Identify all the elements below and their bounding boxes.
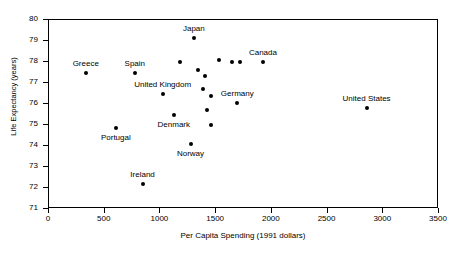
data-point <box>365 106 369 110</box>
data-point <box>201 87 205 91</box>
data-point-label: Canada <box>249 48 277 57</box>
plot-area: GreeceSpainPortugalIrelandUnited Kingdom… <box>48 19 438 208</box>
data-point <box>189 142 193 146</box>
x-tick-label: 1500 <box>195 215 235 223</box>
data-point <box>133 71 137 75</box>
data-point-label: Greece <box>73 59 99 68</box>
y-tick-label: 72 <box>14 183 38 191</box>
x-tick-label: 2000 <box>251 215 291 223</box>
data-point <box>209 94 213 98</box>
y-tick <box>43 19 48 20</box>
data-point <box>161 92 165 96</box>
data-point <box>235 101 239 105</box>
y-tick-label: 76 <box>14 99 38 107</box>
data-point-label: Norway <box>177 149 204 158</box>
data-point <box>261 60 265 64</box>
x-tick-label: 1000 <box>139 215 179 223</box>
y-tick-label: 73 <box>14 162 38 170</box>
y-tick-label: 77 <box>14 78 38 86</box>
x-tick-label: 500 <box>84 215 124 223</box>
data-point <box>230 60 234 64</box>
chart-page: Life Expectancy (years) Per Capita Spend… <box>0 0 468 254</box>
y-tick <box>43 166 48 167</box>
x-tick <box>327 208 328 213</box>
y-tick <box>43 61 48 62</box>
y-tick <box>43 124 48 125</box>
x-tick-label: 0 <box>28 215 68 223</box>
data-point-label: United Kingdom <box>134 80 191 89</box>
x-tick <box>271 208 272 213</box>
y-tick-label: 71 <box>14 204 38 212</box>
data-point <box>172 113 176 117</box>
data-point <box>217 58 221 62</box>
y-tick <box>43 187 48 188</box>
y-tick-label: 78 <box>14 57 38 65</box>
x-axis-title: Per Capita Spending (1991 dollars) <box>48 231 438 240</box>
x-tick <box>48 208 49 213</box>
x-tick-label: 3500 <box>418 215 458 223</box>
data-point-label: Germany <box>221 89 254 98</box>
y-tick-label: 80 <box>14 15 38 23</box>
x-tick <box>438 208 439 213</box>
data-point <box>196 68 200 72</box>
data-point-label: United States <box>343 94 391 103</box>
data-point <box>141 182 145 186</box>
data-point-label: Portugal <box>101 133 131 142</box>
data-point-label: Japan <box>183 24 205 33</box>
data-point <box>114 126 118 130</box>
x-tick-label: 3000 <box>362 215 402 223</box>
y-tick <box>43 40 48 41</box>
x-tick <box>382 208 383 213</box>
data-point <box>84 71 88 75</box>
x-tick <box>104 208 105 213</box>
y-tick <box>43 82 48 83</box>
x-tick <box>159 208 160 213</box>
y-tick <box>43 145 48 146</box>
y-tick <box>43 103 48 104</box>
y-tick-label: 75 <box>14 120 38 128</box>
data-point <box>203 74 207 78</box>
data-point-label: Ireland <box>130 170 154 179</box>
data-point <box>205 108 209 112</box>
data-point-label: Denmark <box>158 120 190 129</box>
y-axis-title: Life Expectancy (years) <box>9 37 18 157</box>
data-point <box>209 123 213 127</box>
data-point <box>178 60 182 64</box>
data-point-label: Spain <box>125 59 145 68</box>
x-tick <box>215 208 216 213</box>
y-tick-label: 74 <box>14 141 38 149</box>
y-tick-label: 79 <box>14 36 38 44</box>
x-tick-label: 2500 <box>307 215 347 223</box>
data-point <box>238 60 242 64</box>
data-point <box>192 36 196 40</box>
